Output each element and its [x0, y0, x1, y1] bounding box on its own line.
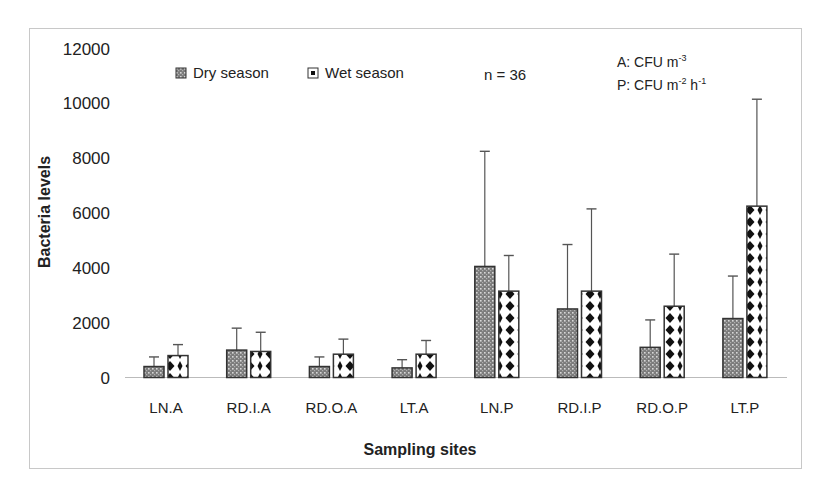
bar-dry-season	[640, 347, 660, 377]
bar-chart: 020004000600080001000012000 LN.ARD.I.ARD…	[0, 0, 825, 500]
y-axis-title: Bacteria levels	[36, 156, 53, 268]
sample-size-annotation: n = 36	[484, 66, 526, 83]
x-tick-label: RD.O.P	[636, 399, 688, 416]
x-tick-label: LT.P	[730, 399, 759, 416]
x-tick-label: RD.O.A	[306, 399, 358, 416]
bar-wet-season	[168, 356, 188, 378]
legend-swatch-wet-inner	[311, 71, 315, 75]
legend-label-dry: Dry season	[193, 64, 269, 81]
bar-wet-season	[582, 291, 602, 377]
bar-wet-season	[499, 291, 519, 377]
x-tick-label: LT.A	[400, 399, 429, 416]
bar-wet-season	[416, 354, 436, 377]
legend-swatch-dry	[176, 68, 186, 78]
y-tick-label: 6000	[72, 204, 110, 223]
x-tick-label: RD.I.A	[227, 399, 271, 416]
bar-wet-season	[333, 354, 353, 377]
bar-dry-season	[227, 350, 247, 377]
unit-annotation-p: P: CFU m-2 h-1	[617, 76, 706, 93]
y-tick-label: 0	[101, 369, 110, 388]
x-tick-label: LN.P	[480, 399, 513, 416]
y-tick-label: 10000	[63, 94, 110, 113]
y-tick-label: 4000	[72, 259, 110, 278]
y-tick-label: 2000	[72, 314, 110, 333]
bar-dry-season	[723, 319, 743, 378]
bar-wet-season	[664, 306, 684, 377]
x-axis-title: Sampling sites	[364, 441, 477, 458]
bar-dry-season	[309, 367, 329, 378]
bar-dry-season	[144, 367, 164, 378]
x-tick-label: LN.A	[149, 399, 182, 416]
y-tick-label: 8000	[72, 149, 110, 168]
x-tick-label: RD.I.P	[557, 399, 601, 416]
y-tick-label: 12000	[63, 40, 110, 59]
bar-wet-season	[251, 351, 271, 377]
bar-dry-season	[392, 368, 412, 378]
legend-label-wet: Wet season	[325, 64, 404, 81]
bar-wet-season	[747, 206, 767, 377]
bar-dry-season	[475, 266, 495, 377]
unit-annotation-a: A: CFU m-3	[617, 53, 686, 70]
bar-dry-season	[558, 309, 578, 378]
